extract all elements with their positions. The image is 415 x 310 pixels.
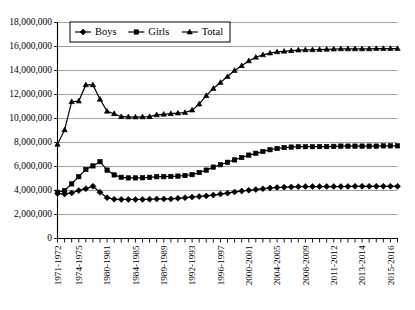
data-marker-diamond — [154, 196, 160, 202]
y-axis-tick-labels: 02,000,0004,000,0006,000,0008,000,00010,… — [9, 17, 52, 243]
data-marker-square — [98, 160, 102, 164]
x-tick-label: 2011-2012 — [329, 245, 339, 285]
data-marker-diamond — [210, 192, 216, 198]
data-marker-square — [367, 144, 371, 148]
x-tick-label: 1971-1972 — [53, 245, 63, 285]
y-tick-label: 16,000,000 — [9, 41, 52, 51]
data-marker-diamond — [140, 196, 146, 202]
data-marker-square — [254, 151, 258, 155]
line-chart: 02,000,0004,000,0006,000,0008,000,00010,… — [0, 0, 415, 310]
data-marker-square — [140, 176, 144, 180]
data-marker-square — [119, 175, 123, 179]
data-marker-square — [317, 144, 321, 148]
data-marker-square — [218, 163, 222, 167]
data-marker-square — [332, 144, 336, 148]
y-tick-label: 12,000,000 — [9, 89, 52, 99]
data-marker-square — [105, 168, 109, 172]
data-series — [55, 46, 401, 203]
chart-container: 02,000,0004,000,0006,000,0008,000,00010,… — [0, 0, 415, 310]
data-marker-square — [381, 144, 385, 148]
data-marker-diamond — [395, 183, 401, 189]
x-tick-label: 2004-2005 — [272, 245, 282, 285]
data-marker-diamond — [295, 184, 301, 190]
data-marker-diamond — [274, 185, 280, 191]
data-marker-square — [69, 182, 73, 186]
data-marker-triangle — [239, 63, 244, 68]
data-marker-square — [282, 145, 286, 149]
x-tick-label: 2008-2009 — [301, 245, 311, 285]
series-boys — [55, 183, 401, 202]
x-tick-label: 1984-1985 — [131, 245, 141, 285]
data-marker-diamond — [147, 196, 153, 202]
data-marker-diamond — [125, 196, 131, 202]
data-marker-diamond — [203, 193, 209, 199]
data-marker-diamond — [281, 184, 287, 190]
data-marker-diamond — [175, 195, 181, 201]
x-tick-label: 1992-1993 — [187, 245, 197, 285]
data-marker-square — [112, 173, 116, 177]
data-marker-square — [296, 145, 300, 149]
data-marker-square — [154, 175, 158, 179]
data-marker-diamond — [302, 184, 308, 190]
data-marker-square — [134, 30, 138, 34]
data-marker-triangle — [76, 98, 81, 103]
data-marker-diamond — [345, 183, 351, 189]
y-tick-label: 2,000,000 — [14, 209, 52, 219]
data-marker-diamond — [196, 194, 202, 200]
data-marker-square — [169, 174, 173, 178]
data-marker-square — [197, 170, 201, 174]
data-marker-triangle — [232, 68, 237, 73]
data-marker-diamond — [324, 184, 330, 190]
data-marker-square — [324, 144, 328, 148]
data-marker-diamond — [380, 183, 386, 189]
data-marker-square — [310, 145, 314, 149]
data-marker-square — [62, 188, 66, 192]
x-axis-ticks — [58, 239, 398, 243]
data-marker-square — [162, 175, 166, 179]
data-marker-diamond — [338, 184, 344, 190]
data-marker-diamond — [182, 195, 188, 201]
x-tick-label: 2013-2014 — [357, 245, 367, 285]
data-marker-square — [275, 146, 279, 150]
data-marker-square — [126, 176, 130, 180]
y-tick-label: 10,000,000 — [9, 113, 52, 123]
x-axis-tick-labels: 1971-19721974-19751980-19811984-19851989… — [53, 245, 396, 285]
data-marker-diamond — [132, 197, 138, 203]
data-marker-diamond — [331, 184, 337, 190]
data-marker-diamond — [217, 191, 223, 197]
x-tick-label: 1996-1997 — [216, 245, 226, 285]
data-marker-square — [190, 172, 194, 176]
x-tick-label: 1974-1975 — [74, 245, 84, 285]
legend-label: Boys — [95, 26, 117, 37]
data-marker-square — [183, 173, 187, 177]
data-marker-square — [133, 176, 137, 180]
data-marker-square — [261, 149, 265, 153]
data-marker-diamond — [168, 196, 174, 202]
data-marker-triangle — [97, 96, 102, 101]
data-marker-square — [360, 144, 364, 148]
data-marker-diamond — [288, 184, 294, 190]
data-marker-square — [225, 160, 229, 164]
data-marker-square — [91, 164, 95, 168]
x-tick-label: 2015-2016 — [386, 245, 396, 285]
y-tick-label: 14,000,000 — [9, 65, 52, 75]
x-tick-label: 1989-1989 — [159, 245, 169, 285]
data-marker-diamond — [118, 196, 124, 202]
series-total — [55, 46, 400, 147]
data-marker-square — [388, 144, 392, 148]
data-marker-diamond — [111, 196, 117, 202]
data-marker-diamond — [161, 196, 167, 202]
data-marker-square — [346, 144, 350, 148]
data-marker-square — [147, 175, 151, 179]
data-marker-diamond — [232, 189, 238, 195]
y-tick-label: 6,000,000 — [14, 161, 52, 171]
data-marker-square — [77, 175, 81, 179]
data-marker-diamond — [359, 183, 365, 189]
series-line — [58, 49, 398, 145]
data-marker-square — [204, 168, 208, 172]
data-marker-square — [353, 144, 357, 148]
data-marker-diamond — [387, 183, 393, 189]
chart-legend: BoysGirlsTotal — [70, 22, 230, 42]
data-marker-triangle — [62, 127, 67, 132]
data-marker-diamond — [373, 183, 379, 189]
